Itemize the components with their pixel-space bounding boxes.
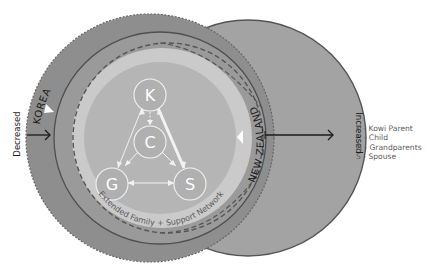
node-c: C [134,126,166,158]
legend: K - Kowi Parent C - Child G - Grandparen… [356,124,422,162]
node-k: K [134,79,166,111]
node-k-label: K [145,86,156,105]
legend-item-g: G - Grandparents [356,143,422,152]
decreased-label: Decreased [12,111,22,156]
legend-item-c: C - Child [356,133,422,142]
node-g-label: G [106,175,118,194]
node-s: S [174,168,206,200]
node-c-label: C [144,133,155,152]
legend-item-s: S - Spouse [356,152,422,161]
legend-item-k: K - Kowi Parent [356,124,422,133]
node-s-label: S [185,175,195,194]
